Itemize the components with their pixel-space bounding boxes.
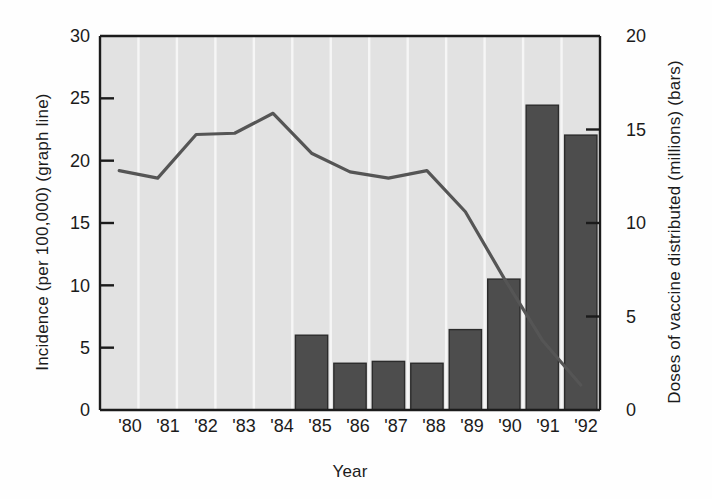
bar-92 (565, 135, 597, 410)
y-tick-left-0: 0 (50, 400, 90, 421)
bar-89 (449, 330, 481, 410)
y-tick-left-25: 25 (50, 88, 90, 109)
y-axis-label-right: Doses of vaccine distributed (millions) … (665, 52, 685, 412)
bar-86 (334, 363, 366, 410)
x-axis-label: Year (100, 462, 600, 482)
plot-background (100, 36, 600, 410)
y-tick-left-30: 30 (50, 26, 90, 47)
y-tick-left-20: 20 (50, 151, 90, 172)
y-tick-right-5: 5 (626, 307, 666, 328)
bar-88 (411, 363, 443, 410)
y-tick-right-15: 15 (626, 120, 666, 141)
y-tick-right-10: 10 (626, 213, 666, 234)
bar-87 (372, 361, 404, 410)
bar-91 (526, 105, 558, 410)
y-tick-right-20: 20 (626, 26, 666, 47)
bar-85 (295, 335, 327, 410)
y-tick-right-0: 0 (626, 400, 666, 421)
chart-figure: Incidence (per 100,000) (graph line) Dos… (0, 0, 712, 499)
y-tick-left-5: 5 (50, 338, 90, 359)
y-tick-left-15: 15 (50, 213, 90, 234)
y-tick-left-10: 10 (50, 276, 90, 297)
x-tick-92: '92 (564, 416, 608, 437)
